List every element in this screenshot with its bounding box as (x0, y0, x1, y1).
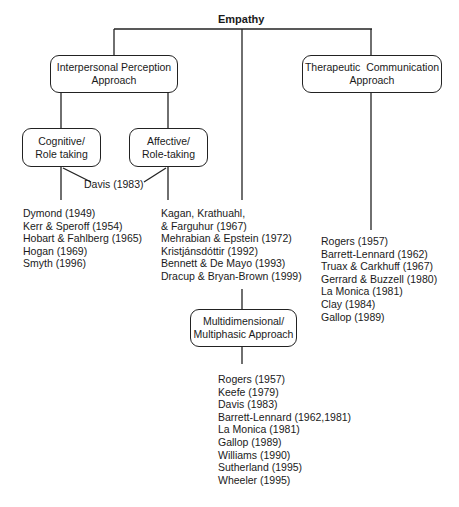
list-item: Dracup & Bryan-Brown (1999) (161, 270, 302, 283)
list-item: Rogers (1957) (321, 235, 437, 248)
list-item: Clay (1984) (321, 298, 437, 311)
list-item: Gallop (1989) (321, 311, 437, 324)
multidimensional-authors-list: Rogers (1957) Keefe (1979) Davis (1983) … (218, 373, 351, 486)
interpersonal-perception-box: Interpersonal Perception Approach (50, 55, 178, 93)
interpersonal-authors-list: Dymond (1949) Kerr & Speroff (1954) Hoba… (23, 207, 142, 270)
multidimensional-multiphasic-box: Multidimensional/ Multiphasic Approach (190, 309, 297, 347)
affective-role-taking-box: Affective/ Role-taking (129, 128, 208, 167)
cognitive-role-taking-box: Cognitive/ Role taking (22, 128, 101, 167)
diagram-title: Empathy (218, 13, 264, 25)
cropped-caption (0, 500, 459, 507)
therapeutic-communication-box: Therapeutic Communication Approach (302, 55, 442, 93)
cognitive-label-line1: Cognitive/ (35, 135, 88, 148)
cropped-caption-text (0, 500, 459, 507)
center-authors-list: Kagan, Krathuahl, & Farguhur (1967) Mehr… (161, 207, 302, 283)
list-item: Dymond (1949) (23, 207, 142, 220)
therapeutic-label-line2: Approach (305, 74, 439, 87)
list-item: La Monica (1981) (218, 423, 351, 436)
list-item: Bennett & De Mayo (1993) (161, 257, 302, 270)
multidimensional-label-line2: Multiphasic Approach (194, 328, 294, 341)
list-item: Kagan, Krathuahl, (161, 207, 302, 220)
list-item: Rogers (1957) (218, 373, 351, 386)
list-item: Barrett-Lennard (1962,1981) (218, 411, 351, 424)
list-item: Sutherland (1995) (218, 461, 351, 474)
list-item: Barrett-Lennard (1962) (321, 248, 437, 261)
interpersonal-label-line2: Approach (57, 74, 171, 87)
list-item: Gerrard & Buzzell (1980) (321, 273, 437, 286)
list-item: Kristjánsdóttir (1992) (161, 245, 302, 258)
affective-label-line2: Role-taking (142, 148, 195, 161)
list-item: La Monica (1981) (321, 285, 437, 298)
therapeutic-label-line1: Therapeutic Communication (305, 61, 439, 74)
cognitive-label-line2: Role taking (35, 148, 88, 161)
list-item: Kerr & Speroff (1954) (23, 220, 142, 233)
list-item: Wheeler (1995) (218, 474, 351, 487)
affective-label-line1: Affective/ (142, 135, 195, 148)
list-item: Hobart & Fahlberg (1965) (23, 232, 142, 245)
interpersonal-label-line1: Interpersonal Perception (57, 61, 171, 74)
therapeutic-authors-list: Rogers (1957) Barrett-Lennard (1962) Tru… (321, 235, 437, 323)
multidimensional-label-line1: Multidimensional/ (194, 315, 294, 328)
list-item: Truax & Carkhuff (1967) (321, 260, 437, 273)
list-item: Hogan (1969) (23, 245, 142, 258)
list-item: Smyth (1996) (23, 257, 142, 270)
list-item: Mehrabian & Epstein (1972) (161, 232, 302, 245)
shared-reference-davis: Davis (1983) (84, 178, 144, 190)
list-item: Gallop (1989) (218, 436, 351, 449)
list-item: Williams (1990) (218, 449, 351, 462)
list-item: Davis (1983) (218, 398, 351, 411)
list-item: & Farguhur (1967) (161, 220, 302, 233)
list-item: Keefe (1979) (218, 386, 351, 399)
